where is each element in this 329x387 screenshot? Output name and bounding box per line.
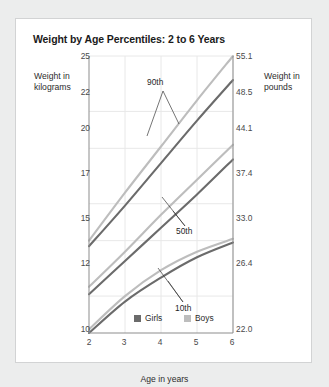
- chart-plot: [16, 19, 313, 364]
- x-tick-6: 6: [222, 337, 242, 347]
- y-tick-left-22: 22: [64, 87, 90, 97]
- y-tick-left-10: 10: [64, 324, 90, 334]
- legend-swatch-girls-icon: [134, 315, 141, 322]
- legend-label-boys: Boys: [195, 313, 214, 323]
- legend-item-boys: Boys: [184, 313, 214, 323]
- x-tick-4: 4: [150, 337, 170, 347]
- y-tick-right-55-1: 55.1: [236, 51, 266, 61]
- y-tick-left-25: 25: [64, 51, 90, 61]
- y-tick-left-20: 20: [64, 123, 90, 133]
- x-tick-2: 2: [79, 337, 99, 347]
- annotation-90th: 90th: [147, 77, 163, 87]
- y-tick-right-33-0: 33.0: [236, 213, 266, 223]
- x-axis-title: Age in years: [16, 374, 313, 385]
- y-tick-right-48-5: 48.5: [236, 87, 266, 97]
- y-tick-right-37-4: 37.4: [236, 168, 266, 178]
- y-tick-left-12: 12: [64, 258, 90, 268]
- y-tick-right-44-1: 44.1: [236, 123, 266, 133]
- y-tick-left-17: 17: [64, 168, 90, 178]
- x-tick-5: 5: [186, 337, 206, 347]
- y-tick-left-15: 15: [64, 213, 90, 223]
- annotation-10th: 10th: [175, 303, 191, 313]
- y-tick-right-22-0: 22.0: [236, 324, 266, 334]
- y-tick-right-26-4: 26.4: [236, 258, 266, 268]
- legend-item-girls: Girls: [134, 313, 162, 323]
- legend-label-girls: Girls: [145, 313, 162, 323]
- annotation-50th: 50th: [176, 226, 192, 236]
- legend-swatch-boys-icon: [184, 315, 191, 322]
- chart-card: Weight by Age Percentiles: 2 to 6 Years …: [15, 18, 312, 363]
- x-tick-3: 3: [114, 337, 134, 347]
